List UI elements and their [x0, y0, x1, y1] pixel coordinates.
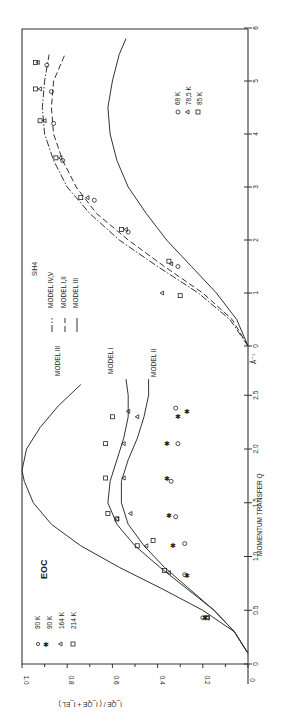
svg-text:6: 6 [252, 26, 259, 30]
svg-text:5: 5 [252, 79, 259, 83]
svg-text:✱: ✱ [184, 572, 190, 579]
legend-90k-circle: 90 K [34, 615, 41, 629]
svg-text:✱: ✱ [164, 440, 170, 447]
annotation-model-iii: MODEL III [54, 346, 61, 376]
svg-text:0: 0 [252, 344, 259, 348]
legend-214k: 214 K [70, 611, 77, 629]
svg-text:✱: ✱ [43, 641, 49, 648]
data-points: ✱✱✱✱✱✱✱✱ [34, 60, 210, 621]
annotation-model-i: MODEL I [107, 347, 114, 374]
legend-785k: 78,5 K [185, 86, 192, 105]
legend-85k: 85 K [196, 91, 203, 105]
svg-text:0.2: 0.2 [204, 675, 211, 684]
legend-model-iii: MODEL III [72, 278, 79, 308]
svg-text:0.5: 0.5 [252, 605, 259, 614]
upper-model-legend: MODEL IV,V MODEL I,II MODEL III [47, 271, 79, 332]
svg-text:2.0: 2.0 [252, 444, 259, 453]
svg-text:✱: ✱ [184, 408, 190, 415]
svg-text:2: 2 [252, 238, 259, 242]
svg-text:✱: ✱ [175, 413, 181, 420]
svg-text:1: 1 [252, 291, 259, 295]
annotation-model-ii: MODEL II [150, 349, 157, 377]
svg-text:0.4: 0.4 [159, 675, 166, 684]
svg-text:0: 0 [249, 678, 256, 682]
upper-temp-legend: 68 K 78,5 K 85 K [174, 86, 203, 114]
legend-model-iv-v: MODEL IV,V [47, 271, 54, 308]
svg-text:✱: ✱ [166, 512, 172, 519]
upper-title: SiH4 [31, 262, 38, 276]
figure: 012345600.51.01.52.02.51.00.80.60.40.20 … [0, 0, 284, 728]
lower-temp-legend: ✱ 90 K 90 K 164 K 214 K [34, 611, 77, 648]
svg-text:3: 3 [252, 185, 259, 189]
svg-text:4: 4 [252, 132, 259, 136]
svg-text:✱: ✱ [164, 475, 170, 482]
svg-text:1.0: 1.0 [23, 675, 30, 684]
svg-text:2.5: 2.5 [252, 390, 259, 399]
legend-90k-asterisk: 90 K [46, 615, 53, 629]
svg-text:0: 0 [252, 662, 259, 666]
upper-unit-label: Å⁻¹ [249, 353, 257, 364]
svg-text:0.6: 0.6 [113, 675, 120, 684]
legend-model-i-ii: MODEL I,II [60, 276, 67, 308]
legend-68k: 68 K [174, 91, 181, 105]
legend-164k: 164 K [58, 611, 65, 629]
svg-text:0.8: 0.8 [68, 675, 75, 684]
lower-title: EOC [39, 559, 49, 579]
y-axis-title: I_QE / ( I_QE + I_EL ) [58, 700, 122, 708]
x-axis-title: MOMENTUM TRANSFER Q [256, 473, 264, 556]
svg-text:✱: ✱ [170, 542, 176, 549]
